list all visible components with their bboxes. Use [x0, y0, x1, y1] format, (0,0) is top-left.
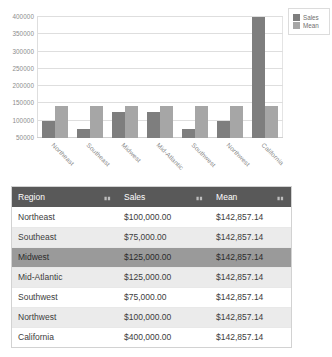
x-axis-labels: NortheastSoutheastMidwestMid-AtlanticSou…	[38, 140, 284, 180]
y-axis-tick-label: 100000	[12, 116, 34, 123]
legend-swatch-icon	[293, 22, 300, 29]
legend-item-sales[interactable]: Sales	[293, 14, 326, 21]
y-axis-tick-label: 200000	[12, 82, 34, 89]
table-row[interactable]: Midwest$125,000.00$142,857.14	[12, 247, 291, 267]
cell-region: Midwest	[12, 247, 118, 267]
table-row[interactable]: Mid-Atlantic$125,000.00$142,857.14	[12, 267, 291, 287]
sort-arrows-icon[interactable]	[104, 194, 111, 201]
column-header-label: Mean	[216, 192, 237, 202]
y-axis-tick-label: 50000	[16, 134, 34, 141]
bar-sales[interactable]	[252, 17, 265, 138]
table-header: Region Sales	[12, 187, 291, 207]
y-axis-tick-label: 300000	[12, 47, 34, 54]
table-row[interactable]: California$400,000.00$142,857.14	[12, 327, 291, 347]
x-axis-label-slot: Southeast	[73, 140, 108, 180]
bar-group	[73, 16, 108, 138]
y-axis-tick-label: 150000	[12, 99, 34, 106]
cell-sales: $100,000.00	[118, 307, 210, 327]
cell-mean: $142,857.14	[210, 227, 291, 247]
column-header-label: Sales	[124, 192, 145, 202]
bar-sales[interactable]	[217, 121, 230, 138]
x-axis-label-slot: California	[249, 140, 284, 180]
cell-mean: $142,857.14	[210, 267, 291, 287]
cell-sales: $75,000.00	[118, 287, 210, 307]
cell-mean: $142,857.14	[210, 327, 291, 347]
bar-mean[interactable]	[160, 106, 173, 138]
cell-region: California	[12, 327, 118, 347]
cell-mean: $142,857.14	[210, 247, 291, 267]
bar-mean[interactable]	[265, 106, 278, 138]
y-axis-tick-label: 250000	[12, 64, 34, 71]
bar-mean[interactable]	[55, 106, 68, 138]
table-row[interactable]: Southeast$75,000.00$142,857.14	[12, 227, 291, 247]
x-axis-tick-label: Midwest	[120, 141, 142, 163]
sales-bar-chart: 4000003500003000002500002000001500001000…	[0, 0, 332, 180]
legend-label: Sales	[303, 14, 319, 21]
sort-arrows-icon[interactable]	[196, 194, 203, 201]
cell-region: Southeast	[12, 227, 118, 247]
cell-region: Northeast	[12, 207, 118, 227]
bar-group	[177, 16, 212, 138]
sales-data-table: Region Sales	[11, 186, 292, 348]
x-axis-label-slot: Southwest	[179, 140, 214, 180]
table-row[interactable]: Northwest$100,000.00$142,857.14	[12, 307, 291, 327]
cell-sales: $400,000.00	[118, 327, 210, 347]
bar-mean[interactable]	[230, 106, 243, 138]
cell-sales: $100,000.00	[118, 207, 210, 227]
x-axis-label-slot: Midwest	[108, 140, 143, 180]
column-header-region[interactable]: Region	[12, 187, 118, 207]
bar-group	[108, 16, 143, 138]
y-axis-tick-label: 400000	[12, 13, 34, 20]
column-header-sales[interactable]: Sales	[118, 187, 210, 207]
cell-region: Mid-Atlantic	[12, 267, 118, 287]
cell-mean: $142,857.14	[210, 307, 291, 327]
cell-mean: $142,857.14	[210, 207, 291, 227]
table-row[interactable]: Northeast$100,000.00$142,857.14	[12, 207, 291, 227]
bar-sales[interactable]	[77, 129, 90, 138]
bar-group	[38, 16, 73, 138]
sort-arrows-icon[interactable]	[277, 194, 284, 201]
cell-region: Northwest	[12, 307, 118, 327]
cell-mean: $142,857.14	[210, 287, 291, 307]
chart-bars	[38, 16, 282, 138]
legend-swatch-icon	[293, 14, 300, 21]
x-axis-tick-label: California	[261, 141, 286, 166]
bar-group	[212, 16, 247, 138]
cell-sales: $125,000.00	[118, 247, 210, 267]
bar-mean[interactable]	[90, 106, 103, 138]
chart-plot-area: 4000003500003000002500002000001500001000…	[37, 16, 283, 138]
chart-legend: Sales Mean	[288, 8, 330, 35]
cell-sales: $75,000.00	[118, 227, 210, 247]
bar-sales[interactable]	[112, 112, 125, 138]
bar-sales[interactable]	[182, 129, 195, 138]
bar-sales[interactable]	[147, 112, 160, 138]
table-header-row: Region Sales	[12, 187, 291, 207]
column-header-label: Region	[18, 192, 45, 202]
x-axis-label-slot: Northwest	[214, 140, 249, 180]
bar-group	[143, 16, 178, 138]
bar-mean[interactable]	[125, 106, 138, 138]
table-row[interactable]: Southwest$75,000.00$142,857.14	[12, 287, 291, 307]
x-axis-label-slot: Northeast	[38, 140, 73, 180]
x-axis-label-slot: Mid-Atlantic	[143, 140, 178, 180]
legend-item-mean[interactable]: Mean	[293, 22, 326, 29]
table-body: Northeast$100,000.00$142,857.14Southeast…	[12, 207, 291, 347]
bar-sales[interactable]	[42, 121, 55, 138]
cell-region: Southwest	[12, 287, 118, 307]
bar-group	[247, 16, 282, 138]
bar-mean[interactable]	[195, 106, 208, 138]
column-header-mean[interactable]: Mean	[210, 187, 291, 207]
cell-sales: $125,000.00	[118, 267, 210, 287]
x-axis-tick-label: Northeast	[50, 141, 76, 167]
legend-label: Mean	[303, 22, 319, 29]
y-axis-tick-label: 350000	[12, 30, 34, 37]
